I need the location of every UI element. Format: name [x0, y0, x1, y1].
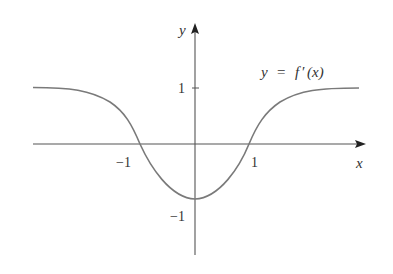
curve-label-f: f: [295, 64, 301, 80]
y-tick-label-neg1: −1: [170, 209, 185, 224]
x-axis-label: x: [355, 155, 363, 171]
x-axis: [33, 140, 366, 148]
x-tick-label-1: 1: [251, 155, 258, 170]
x-tick-label-neg1: −1: [116, 155, 131, 170]
curve-label-eq: =: [277, 64, 285, 80]
curve-label-arg: (x): [307, 64, 324, 81]
y-axis: [191, 23, 199, 255]
y-tick-label-1: 1: [178, 81, 185, 96]
curve-f-prime: [33, 88, 359, 200]
curve-label: y = f ′ (x): [259, 64, 324, 81]
chart: y x −1 1 1 −1 y = f ′ (x): [0, 0, 393, 274]
y-axis-label: y: [177, 22, 186, 38]
curve-label-y: y: [259, 64, 268, 80]
curve-label-prime: ′: [302, 64, 305, 80]
